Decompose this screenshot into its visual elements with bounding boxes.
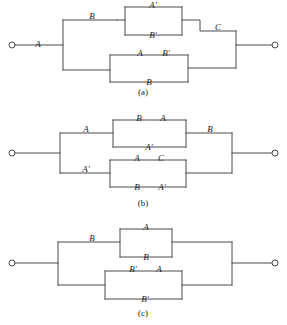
network-diagram-b: A B A A' B A' A C B A'	[0, 105, 287, 215]
caption-c: (c)	[138, 308, 148, 318]
diagram-a-svg: A B A' B' C A B' B	[0, 0, 287, 105]
label-lower-lead-b: A'	[81, 164, 90, 174]
diagram-b-svg: A B A A' B A' A C B A'	[0, 105, 287, 215]
right-terminal-b	[272, 150, 278, 156]
label-merge-b: B	[207, 124, 213, 134]
label-upper-block-bottom-a: B'	[149, 30, 157, 40]
label-upper-block-top-right-b: A	[159, 113, 166, 123]
figure-root: A B A' B' C A B' B	[0, 0, 287, 325]
label-lower-block-top-right-b: C	[158, 153, 165, 163]
label-merge-c-a: C	[215, 22, 222, 32]
diagram-c-svg: B A B B' A B'	[0, 215, 287, 325]
label-upper-lead-b: A	[82, 124, 89, 134]
label-upper-block-top-a: A'	[148, 0, 157, 10]
right-terminal-a	[272, 42, 278, 48]
label-upper-block-top-left-b: B	[136, 113, 142, 123]
label-upper-block-bottom-b: A'	[144, 142, 153, 152]
label-lower-block-top-left-b: A	[133, 153, 140, 163]
label-lower-block-top-left-c: B'	[129, 264, 137, 274]
label-lower-block-bottom-right-b: A'	[157, 182, 166, 192]
left-terminal-a	[9, 42, 15, 48]
caption-b: (b)	[138, 198, 149, 208]
caption-a: (a)	[138, 87, 148, 97]
label-lower-block-top-right-c: A	[155, 264, 162, 274]
label-series-a: A	[34, 39, 41, 49]
network-diagram-c: B A B B' A B'	[0, 215, 287, 325]
label-upper-block-bottom-c: B	[143, 252, 149, 262]
label-upper-block-top-c: A	[142, 222, 149, 232]
label-upper-lead-a: B	[89, 11, 95, 21]
network-diagram-a: A B A' B' C A B' B	[0, 0, 287, 105]
label-lower-block-bottom-c: B'	[141, 294, 149, 304]
label-lower-block-top-left-a: A	[136, 48, 143, 58]
label-lower-block-bottom-left-b: B	[134, 182, 140, 192]
upper-to-merge-a	[182, 20, 236, 31]
right-terminal-c	[272, 260, 278, 266]
label-lower-block-bottom-a: B	[146, 77, 152, 87]
label-upper-lead-c: B	[89, 233, 95, 243]
label-lower-block-top-right-a: B'	[162, 48, 170, 58]
left-terminal-b	[9, 150, 15, 156]
left-terminal-c	[9, 260, 15, 266]
